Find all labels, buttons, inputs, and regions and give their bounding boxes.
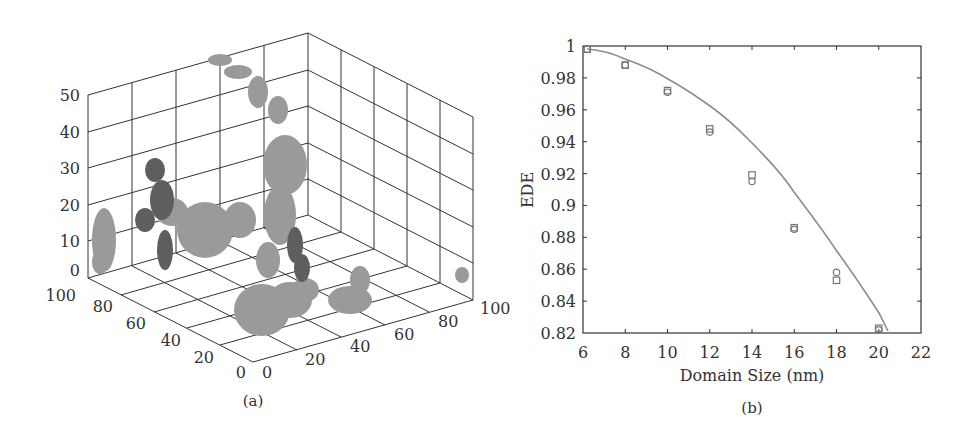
svg-text:50: 50 [60,86,80,105]
panel-b-line-chart: 1 0.98 0.96 0.94 0.92 0.9 0.88 0.86 0.84… [518,37,931,417]
svg-text:10: 10 [657,343,677,362]
svg-text:40: 40 [350,337,370,356]
svg-text:60: 60 [394,325,414,344]
svg-text:0.86: 0.86 [540,260,576,279]
circle-markers [584,46,882,333]
plot-frame [583,46,921,333]
svg-text:20: 20 [869,343,889,362]
svg-text:6: 6 [578,343,588,362]
svg-text:0.84: 0.84 [540,292,576,311]
fit-curve [587,49,888,331]
svg-text:60: 60 [126,314,146,333]
x-axis-label: Domain Size (nm) [680,366,825,385]
svg-text:0.96: 0.96 [540,101,576,120]
svg-text:0.82: 0.82 [540,324,576,343]
y-tick-labels: 1 0.98 0.96 0.94 0.92 0.9 0.88 0.86 0.84… [540,37,576,343]
svg-text:0: 0 [236,363,246,382]
x-ticks [625,46,879,333]
z-axis-ticks: 50 40 30 20 10 0 [60,86,80,280]
panel-a-label: (a) [243,392,264,410]
svg-text:16: 16 [784,343,804,362]
svg-text:0.94: 0.94 [540,133,576,152]
y-ticks [583,78,921,301]
svg-text:14: 14 [742,343,762,362]
svg-text:80: 80 [438,312,458,331]
svg-text:18: 18 [826,343,846,362]
svg-text:100: 100 [480,299,511,318]
svg-text:22: 22 [911,343,931,362]
svg-text:10: 10 [60,232,80,251]
svg-text:40: 40 [161,331,181,350]
svg-text:0: 0 [70,261,80,280]
svg-text:1: 1 [566,37,576,56]
svg-text:0.92: 0.92 [540,165,576,184]
svg-text:12: 12 [700,343,720,362]
svg-text:0.98: 0.98 [540,69,576,88]
svg-text:0.88: 0.88 [540,228,576,247]
svg-text:40: 40 [60,123,80,142]
svg-text:20: 20 [305,350,325,369]
svg-text:30: 30 [60,159,80,178]
svg-text:20: 20 [194,348,214,367]
square-markers [584,46,882,331]
svg-text:8: 8 [620,343,630,362]
svg-text:0: 0 [262,363,272,382]
svg-text:100: 100 [45,286,76,305]
svg-text:20: 20 [60,196,80,215]
panel-a-3d-plot: 50 40 30 20 10 0 100 80 60 40 20 0 0 20 … [45,33,510,410]
panel-b-label: (b) [741,399,762,417]
svg-text:0.9: 0.9 [551,196,576,215]
figure: 50 40 30 20 10 0 100 80 60 40 20 0 0 20 … [0,0,975,439]
domain-clusters [92,54,469,336]
x-tick-labels: 6 8 10 12 14 16 18 20 22 [578,343,931,362]
y-axis-ticks: 100 80 60 40 20 0 [45,286,246,382]
svg-text:80: 80 [93,297,113,316]
y-axis-label: EDE [518,172,537,208]
